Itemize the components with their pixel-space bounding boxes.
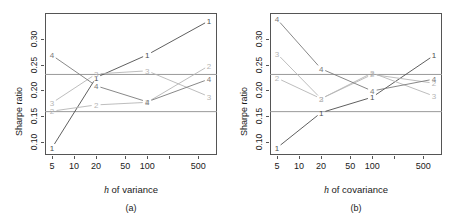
y-tick-mark	[41, 65, 44, 66]
x-tick-mark	[299, 156, 300, 159]
x-tick-label: 20	[81, 161, 111, 171]
x-tick-mark	[198, 156, 199, 159]
x-tick-mark	[125, 156, 126, 159]
data-point-label: 4	[275, 15, 280, 24]
series-segment	[151, 23, 205, 53]
y-tick-label: 0.25	[254, 52, 264, 78]
x-tick-mark	[321, 156, 322, 159]
x-axis-label-a: h of variance	[45, 184, 217, 195]
y-tick-mark	[41, 116, 44, 117]
series-segment	[56, 76, 93, 100]
x-axis-label-a-rest: of variance	[109, 184, 158, 195]
x-tick-mark	[423, 156, 424, 159]
data-point-label: 3	[370, 69, 375, 78]
data-point-label: 3	[275, 50, 280, 59]
y-tick-mark	[266, 39, 269, 40]
data-point-label: 3	[432, 92, 437, 101]
series-segment	[325, 75, 368, 97]
series-segment	[281, 115, 318, 145]
y-tick-label: 0.10	[29, 129, 39, 155]
data-point-label: 2	[94, 101, 99, 110]
data-point-label: 3	[319, 95, 324, 104]
y-tick-label: 0.25	[29, 52, 39, 78]
x-tick-label: 20	[306, 161, 336, 171]
data-point-label: 2	[207, 62, 212, 71]
data-point-label: 2	[275, 74, 280, 83]
data-point-label: 1	[145, 51, 150, 60]
x-tick-mark	[96, 156, 97, 159]
data-point-label: 4	[207, 75, 212, 84]
x-tick-mark	[147, 156, 148, 159]
x-tick-mark	[394, 156, 395, 159]
series-segment	[57, 106, 92, 111]
data-point-label: 1	[207, 17, 212, 26]
x-tick-label: 100	[357, 161, 387, 171]
data-point-label: 4	[50, 51, 55, 60]
x-axis-label-b-rest: of covariance	[329, 184, 388, 195]
data-point-label: 4	[432, 75, 437, 84]
chart-panel-a: Sharpe ratio 1111222233334444 h of varia…	[0, 0, 227, 224]
x-tick-label: 500	[183, 161, 213, 171]
y-tick-label: 0.20	[254, 77, 264, 103]
y-tick-mark	[41, 90, 44, 91]
data-point-label: 3	[145, 67, 150, 76]
x-tick-mark	[350, 156, 351, 159]
data-point-label: 3	[50, 99, 55, 108]
chart-panel-b: Sharpe ratio 1111222233334444 h of covar…	[227, 0, 453, 224]
x-tick-mark	[74, 156, 75, 159]
y-tick-label: 0.20	[29, 77, 39, 103]
series-segment	[280, 23, 318, 66]
y-tick-label: 0.15	[254, 103, 264, 129]
x-tick-mark	[169, 156, 170, 159]
series-segment	[54, 81, 93, 144]
y-tick-mark	[41, 142, 44, 143]
figure-container: Sharpe ratio 1111222233334444 h of varia…	[0, 0, 453, 224]
series-segment	[101, 103, 143, 105]
x-tick-mark	[372, 156, 373, 159]
y-tick-mark	[266, 116, 269, 117]
y-tick-mark	[266, 65, 269, 66]
data-point-label: 4	[145, 98, 150, 107]
data-point-label: 4	[319, 65, 324, 74]
data-point-label: 3	[94, 70, 99, 79]
x-tick-mark	[277, 156, 278, 159]
y-tick-mark	[41, 39, 44, 40]
series-segment	[280, 57, 318, 95]
data-point-label: 1	[275, 144, 280, 153]
data-point-label: 4	[94, 82, 99, 91]
x-tick-label: 100	[132, 161, 162, 171]
data-point-label: 2	[50, 107, 55, 116]
panel-label-a: (a)	[45, 203, 217, 213]
data-point-label: 1	[50, 144, 55, 153]
series-segment	[281, 80, 317, 97]
data-point-label: 3	[207, 93, 212, 102]
y-tick-label: 0.10	[254, 129, 264, 155]
y-tick-label: 0.15	[29, 103, 39, 129]
y-tick-mark	[266, 90, 269, 91]
series-segment	[376, 74, 429, 94]
series-segment	[56, 58, 93, 83]
series-segment	[325, 98, 367, 111]
x-tick-mark	[52, 156, 53, 159]
series-segment	[100, 87, 143, 100]
y-tick-label: 0.30	[254, 26, 264, 52]
x-axis-label-b: h of covariance	[270, 184, 442, 195]
series-segment	[377, 80, 430, 90]
x-tick-label: 500	[408, 161, 438, 171]
y-tick-mark	[266, 142, 269, 143]
data-point-label: 1	[319, 109, 324, 118]
panel-label-b: (b)	[270, 203, 442, 213]
data-point-label: 4	[370, 87, 375, 96]
y-tick-label: 0.30	[29, 26, 39, 52]
data-point-label: 1	[432, 51, 437, 60]
